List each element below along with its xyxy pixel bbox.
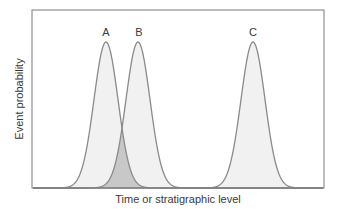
curve-label-c: C — [249, 26, 257, 38]
x-axis-label: Time or stratigraphic level — [115, 193, 241, 205]
curve-label-b: B — [135, 26, 142, 38]
y-axis-label: Event probability — [13, 58, 25, 140]
curve-fill-a — [33, 42, 323, 188]
curve-line-a — [33, 42, 323, 188]
curves-group — [33, 42, 323, 188]
probability-diagram: A B C Time or stratigraphic level Event … — [0, 0, 340, 209]
curve-fill-c — [33, 42, 323, 188]
curve-fill-b — [33, 42, 323, 188]
curve-line-c — [33, 42, 323, 188]
curve-line-b — [33, 42, 323, 188]
curve-label-a: A — [102, 26, 110, 38]
plot-frame — [32, 10, 324, 188]
